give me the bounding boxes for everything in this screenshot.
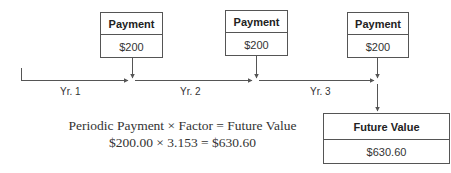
period-label-yr2: Yr. 2 [180, 86, 201, 97]
payment-box-header: Payment [226, 11, 287, 33]
payment-box-3: Payment $200 [347, 12, 409, 58]
period-label-yr3: Yr. 3 [310, 86, 331, 97]
payment-box-header: Payment [348, 13, 408, 35]
payment-box-value: $200 [226, 33, 287, 57]
payment-box-2: Payment $200 [225, 10, 288, 56]
payment-box-header: Payment [101, 13, 162, 35]
payment-box-value: $200 [101, 35, 162, 59]
payment-box-value: $200 [348, 35, 408, 59]
future-value-box: Future Value $630.60 [323, 113, 450, 164]
formula-line-values: $200.00 × 3.153 = $630.60 [60, 135, 305, 151]
future-value-amount: $630.60 [324, 140, 449, 164]
timeline-segment-yr1 [21, 68, 128, 81]
formula-line-labels: Periodic Payment × Factor = Future Value [60, 118, 305, 134]
payment-box-1: Payment $200 [100, 12, 163, 58]
period-label-yr1: Yr. 1 [60, 86, 81, 97]
future-value-header: Future Value [324, 114, 449, 140]
